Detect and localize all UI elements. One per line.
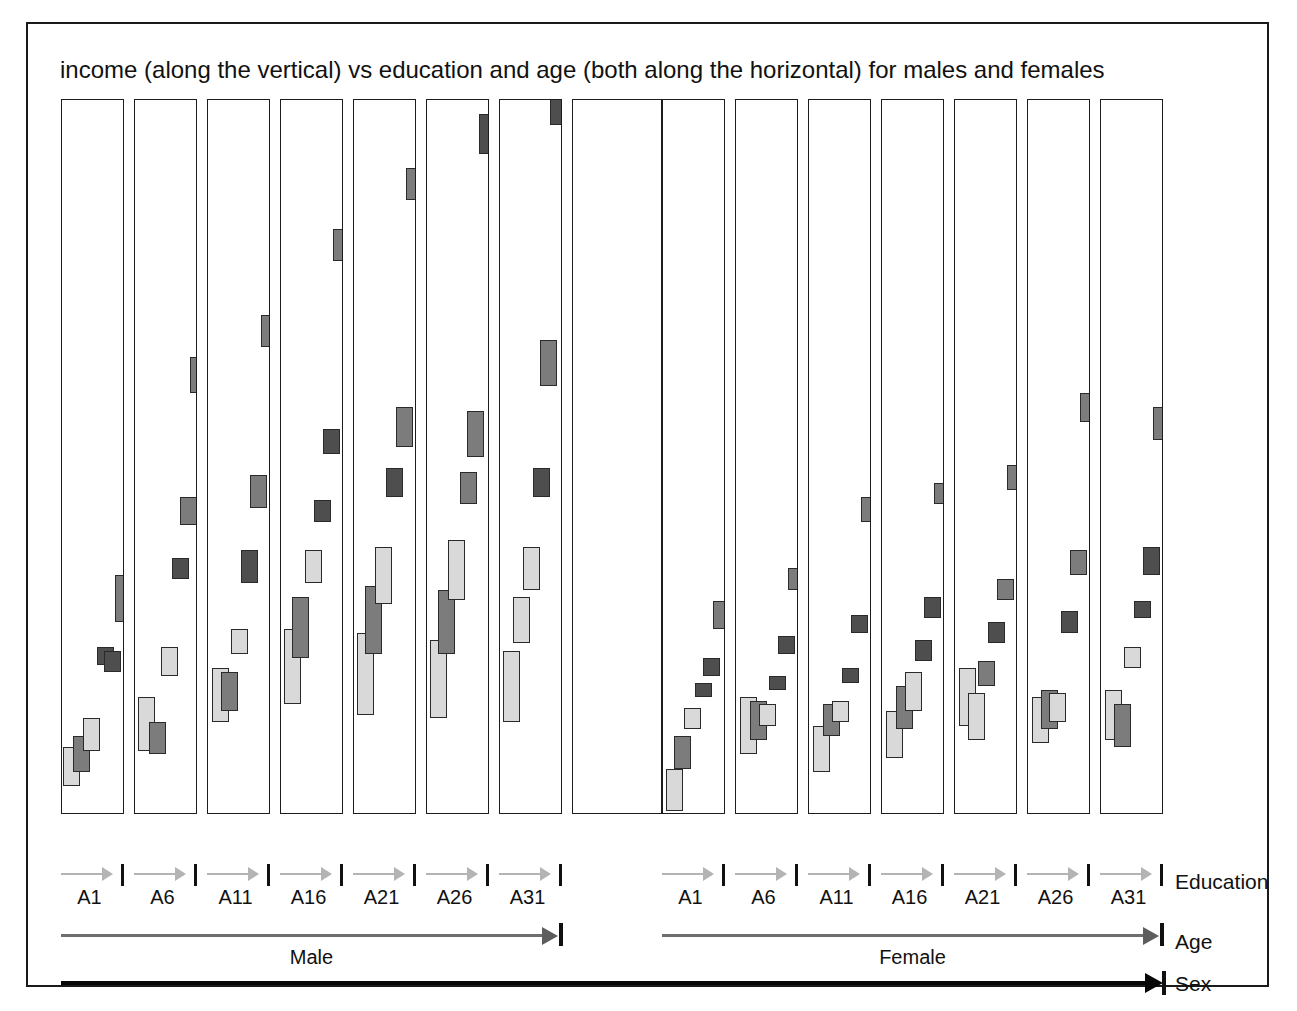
data-mark bbox=[968, 693, 985, 739]
education-tick bbox=[795, 864, 798, 886]
data-mark bbox=[221, 672, 238, 711]
education-tick bbox=[413, 864, 416, 886]
education-tick bbox=[722, 864, 725, 886]
education-axis-female-a1: A1 bbox=[662, 864, 725, 898]
data-mark bbox=[406, 168, 416, 200]
education-arrowhead-icon bbox=[102, 867, 113, 881]
panel-female-a31 bbox=[1100, 99, 1163, 814]
sex-level-label: Male bbox=[61, 946, 562, 969]
education-arrowhead-icon bbox=[394, 867, 405, 881]
age-tick-label: A16 bbox=[280, 886, 337, 909]
data-mark bbox=[550, 99, 562, 125]
education-tick bbox=[941, 864, 944, 886]
plot-area bbox=[61, 99, 1164, 814]
education-arrow bbox=[881, 873, 924, 875]
age-end-tick bbox=[1160, 923, 1164, 946]
education-arrow bbox=[353, 873, 396, 875]
education-arrowhead-icon bbox=[995, 867, 1006, 881]
data-mark bbox=[241, 550, 258, 582]
axis-name-sex: Sex bbox=[1175, 972, 1211, 996]
panel-male-a16 bbox=[280, 99, 343, 814]
education-axis-male-a11: A11 bbox=[207, 864, 270, 898]
education-arrowhead-icon bbox=[776, 867, 787, 881]
figure-frame: income (along the vertical) vs education… bbox=[26, 22, 1269, 987]
data-mark bbox=[523, 547, 540, 590]
data-mark bbox=[915, 640, 932, 661]
education-arrowhead-icon bbox=[703, 867, 714, 881]
data-mark bbox=[759, 704, 776, 725]
education-axis-male-a21: A21 bbox=[353, 864, 416, 898]
data-mark bbox=[978, 661, 995, 686]
age-tick-label: A26 bbox=[426, 886, 483, 909]
data-mark bbox=[231, 629, 248, 654]
education-tick bbox=[194, 864, 197, 886]
data-mark bbox=[1070, 550, 1087, 575]
panel-female-a11 bbox=[808, 99, 871, 814]
age-tick-label: A21 bbox=[954, 886, 1011, 909]
education-arrowhead-icon bbox=[467, 867, 478, 881]
education-axis-female-a31: A31 bbox=[1100, 864, 1163, 898]
data-mark bbox=[988, 622, 1005, 643]
panel-male-a11 bbox=[207, 99, 270, 814]
data-mark bbox=[1061, 611, 1078, 632]
data-mark bbox=[386, 468, 403, 497]
panel-female-a1 bbox=[662, 99, 725, 814]
age-tick-label: A16 bbox=[881, 886, 938, 909]
data-mark bbox=[323, 429, 340, 454]
education-tick bbox=[1087, 864, 1090, 886]
education-arrow bbox=[134, 873, 177, 875]
data-mark bbox=[769, 676, 786, 690]
education-tick bbox=[121, 864, 124, 886]
education-axis-female-a6: A6 bbox=[735, 864, 798, 898]
data-mark bbox=[1007, 465, 1017, 490]
data-mark bbox=[713, 601, 725, 630]
education-arrow bbox=[954, 873, 997, 875]
education-arrow bbox=[735, 873, 778, 875]
education-axis-female-a16: A16 bbox=[881, 864, 944, 898]
data-mark bbox=[83, 718, 100, 750]
education-arrow bbox=[280, 873, 323, 875]
panel-female-a26 bbox=[1027, 99, 1090, 814]
panel-male-a21 bbox=[353, 99, 416, 814]
data-mark bbox=[540, 340, 557, 386]
panel-male-a26 bbox=[426, 99, 489, 814]
data-mark bbox=[396, 407, 413, 446]
data-mark bbox=[666, 769, 683, 812]
age-axis-male: Male bbox=[61, 924, 562, 954]
data-mark bbox=[861, 497, 871, 522]
age-arrowhead-icon bbox=[1143, 927, 1159, 945]
chart-title: income (along the vertical) vs education… bbox=[60, 56, 1240, 84]
axis-name-age: Age bbox=[1175, 930, 1212, 954]
panel-male-a6 bbox=[134, 99, 197, 814]
data-mark bbox=[1153, 407, 1163, 439]
education-tick bbox=[1160, 864, 1163, 886]
data-mark bbox=[1134, 601, 1151, 619]
age-tick-label: A31 bbox=[1100, 886, 1157, 909]
data-mark bbox=[292, 597, 309, 658]
data-mark bbox=[190, 357, 197, 393]
sex-end-tick bbox=[1162, 971, 1166, 995]
education-axis-female-a21: A21 bbox=[954, 864, 1017, 898]
data-mark bbox=[703, 658, 720, 676]
education-arrowhead-icon bbox=[1141, 867, 1152, 881]
data-mark bbox=[533, 468, 550, 497]
data-mark bbox=[305, 550, 322, 582]
data-mark bbox=[778, 636, 795, 654]
data-mark bbox=[997, 579, 1014, 600]
data-mark bbox=[333, 229, 343, 261]
data-mark bbox=[104, 651, 121, 672]
panel-male-a31 bbox=[499, 99, 562, 814]
data-mark bbox=[172, 558, 189, 579]
data-mark bbox=[460, 472, 477, 504]
education-axis-male-a6: A6 bbox=[134, 864, 197, 898]
data-mark bbox=[924, 597, 941, 618]
data-mark bbox=[467, 411, 484, 457]
age-tick-label: A11 bbox=[207, 886, 264, 909]
sex-level-label: Female bbox=[662, 946, 1163, 969]
data-mark bbox=[934, 483, 944, 504]
data-mark bbox=[250, 475, 267, 507]
education-axis-male-a16: A16 bbox=[280, 864, 343, 898]
age-tick-label: A26 bbox=[1027, 886, 1084, 909]
education-arrow bbox=[61, 873, 104, 875]
data-mark bbox=[1114, 704, 1131, 747]
